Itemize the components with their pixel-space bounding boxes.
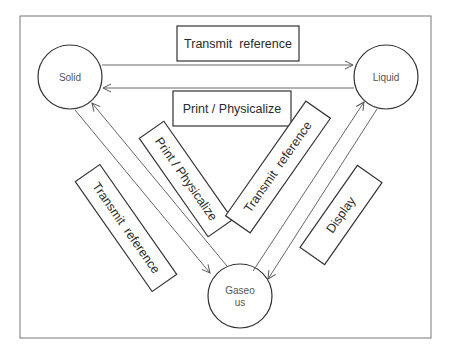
node-gaseous-label-line2: us	[235, 297, 246, 308]
edge-label-liquid-to-solid-text: Print / Physicalize	[183, 102, 282, 116]
edge-label-gaseous-to-solid: Print / Physicalize	[139, 121, 232, 237]
edge-label-gaseous-to-solid-text: Print / Physicalize	[152, 135, 220, 224]
edge-label-solid-to-liquid: Transmit reference	[177, 26, 299, 61]
node-gaseous: Gaseo us	[208, 264, 272, 328]
node-liquid: Liquid	[354, 45, 418, 109]
edge-label-solid-to-gaseous-text: Transmit reference	[89, 180, 162, 276]
state-diagram: Solid Liquid Gaseo us Transmit reference…	[0, 0, 457, 356]
edge-label-liquid-to-solid: Print / Physicalize	[173, 91, 291, 126]
edge-label-gaseous-to-liquid-text: Transmit reference	[241, 119, 314, 215]
node-solid-label: Solid	[59, 72, 81, 83]
edge-label-solid-to-liquid-text: Transmit reference	[184, 37, 292, 51]
node-solid: Solid	[38, 45, 102, 109]
node-liquid-label: Liquid	[373, 72, 400, 83]
node-gaseous-label-line1: Gaseo	[225, 285, 255, 296]
edge-label-solid-to-gaseous: Transmit reference	[75, 165, 176, 292]
